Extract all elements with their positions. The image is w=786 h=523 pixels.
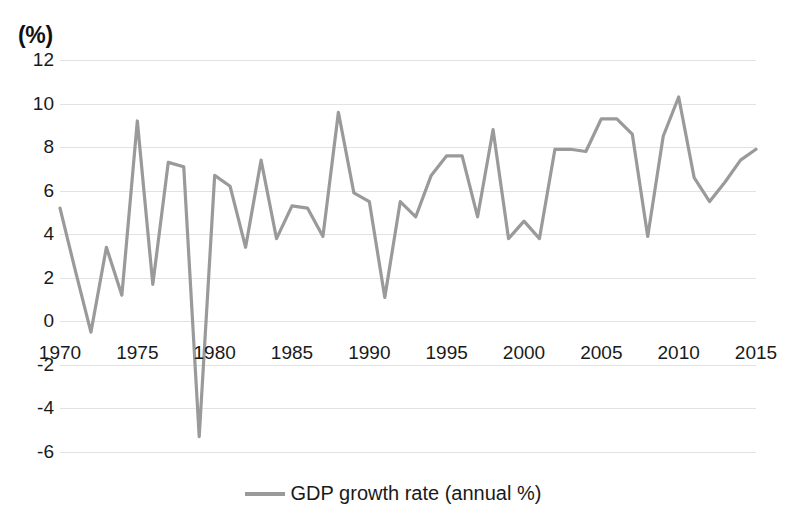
x-axis-tick-label: 2000 — [503, 342, 545, 364]
x-axis-tick-label: 1995 — [426, 342, 468, 364]
legend-label: GDP growth rate (annual %) — [291, 482, 542, 505]
chart-legend: GDP growth rate (annual %) — [0, 482, 786, 505]
x-axis-tick-label: 2010 — [658, 342, 700, 364]
y-axis-tick-label: 2 — [8, 267, 54, 289]
y-axis-tick-label: 8 — [8, 136, 54, 158]
x-axis-tick-label: 2005 — [580, 342, 622, 364]
y-axis-tick-label: 12 — [8, 49, 54, 71]
x-axis-tick-label: 1975 — [116, 342, 158, 364]
x-axis-tick-label: 1980 — [194, 342, 236, 364]
y-axis-tick-label: 10 — [8, 93, 54, 115]
x-axis-tick-labels: 1970197519801985199019952000200520102015 — [60, 342, 756, 372]
y-axis-unit-label: (%) — [18, 22, 53, 49]
x-axis-tick-label: 2015 — [735, 342, 777, 364]
y-axis-tick-label: 6 — [8, 180, 54, 202]
x-axis-tick-label: 1970 — [39, 342, 81, 364]
series-line-gdp-growth-rate — [60, 60, 756, 452]
x-axis-tick-label: 1990 — [348, 342, 390, 364]
x-axis-tick-label: 1985 — [271, 342, 313, 364]
legend-line-swatch-icon — [245, 492, 285, 496]
plot-area — [60, 60, 756, 452]
y-axis-tick-labels: 121086420-2-4-6 — [0, 60, 54, 452]
y-axis-tick-label: -4 — [8, 397, 54, 419]
y-axis-tick-label: 0 — [8, 310, 54, 332]
gridline — [60, 452, 756, 453]
series-polyline — [60, 97, 756, 437]
gdp-growth-line-chart: (%) 121086420-2-4-6 19701975198019851990… — [0, 0, 786, 523]
y-axis-tick-label: 4 — [8, 223, 54, 245]
y-axis-tick-label: -6 — [8, 441, 54, 463]
